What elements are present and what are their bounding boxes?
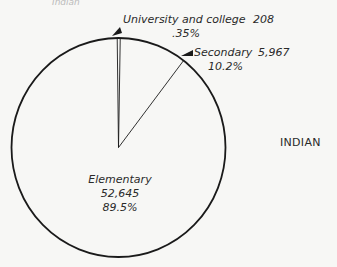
value-elementary: 52,645	[101, 187, 140, 200]
percent-elementary: 89.5%	[103, 201, 138, 214]
label-secondary: Secondary	[194, 46, 253, 59]
value-university: 208	[253, 13, 274, 26]
percent-university: .35%	[172, 27, 200, 40]
label-elementary: Elementary	[88, 173, 152, 186]
pie-chart: Indian University and college 208 .35% S…	[0, 0, 337, 267]
label-university: University and college	[123, 13, 246, 26]
pie-group	[12, 27, 226, 257]
percent-secondary: 10.2%	[208, 60, 243, 73]
arrow-university-icon	[112, 27, 122, 36]
chart-title: INDIAN	[280, 136, 321, 149]
cut-off-caption: Indian	[52, 0, 80, 7]
value-secondary: 5,967	[258, 46, 290, 59]
arrow-secondary-icon	[181, 50, 193, 56]
